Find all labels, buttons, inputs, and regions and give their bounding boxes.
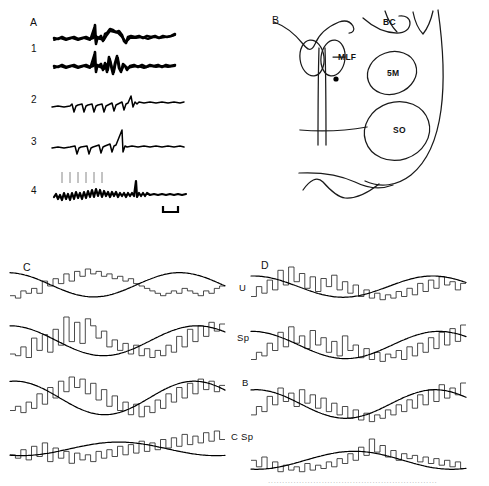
panel-c: C [0,243,245,486]
trace-2 [52,96,184,112]
histogram-outline [10,377,225,417]
trace-label-2: 2 [31,95,37,105]
transverse-fiber-line [300,127,367,131]
chart-c-csp [10,431,225,463]
label-mlf: MLF [338,53,356,62]
trace-1 [54,52,175,74]
histogram-outline [251,383,466,422]
chart-c-b [10,377,225,417]
label-bc: BC [383,18,396,27]
panel-b-section-drawing [245,0,489,243]
histogram-outline [251,439,466,472]
histogram-outline [10,431,225,463]
panel-a: A 1 2 3 4 [0,0,245,243]
histogram-outline [10,317,225,358]
caption-bleed: ........................................… [268,476,483,484]
figure-canvas: A 1 2 3 4 [0,0,489,486]
chart-c-sp [10,317,225,358]
trace-top [54,25,175,44]
panel-c-histograms [0,243,245,486]
trace-label-1: 1 [31,44,37,54]
panel-d-label: D [261,260,269,271]
panel-a-label: A [30,17,37,28]
chart-c-u [10,269,225,298]
lateral-notch-1 [413,11,433,34]
histogram-outline [251,267,466,300]
trace-label-3: 3 [31,137,37,147]
mlf-oval-left [298,39,326,78]
chart-d-csp [251,439,466,472]
label-5m: 5M [387,69,399,78]
chart-d-sp [251,325,466,361]
trace-label-4: 4 [31,186,37,196]
panel-a-traces [0,0,245,243]
panel-d-histograms [245,243,489,486]
label-so: SO [393,126,406,135]
panel-b-label: B [272,15,279,26]
stimulus-marks [62,172,102,183]
panel-c-label: C [23,262,31,273]
trace-4 [54,181,186,200]
chart-d-u [251,267,466,300]
panel-d: D [245,243,489,486]
scale-bar [163,206,178,212]
recording-site-dot [333,76,338,81]
histogram-outline [251,325,466,361]
trace-3 [52,130,184,154]
panel-b: B BC MLF 5M SO [245,0,489,243]
chart-d-b [251,383,466,422]
histogram-outline [10,269,225,298]
